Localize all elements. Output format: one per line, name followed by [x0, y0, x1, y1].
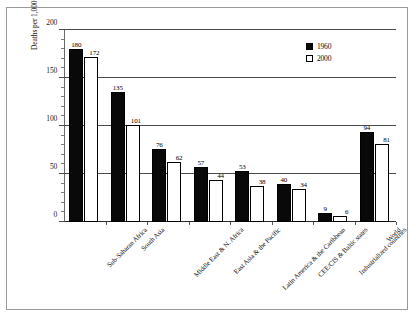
- bar-value-label-2000: 101: [131, 117, 141, 125]
- x-tick-mark: [189, 222, 190, 225]
- legend-label-1960: 1960: [317, 42, 331, 51]
- y-minor-tick-30: [61, 192, 64, 193]
- y-tick-mark-0: [59, 221, 65, 222]
- bar-2000: 34: [292, 189, 306, 222]
- bar-1960: 9: [318, 213, 332, 222]
- bar-2000: 101: [126, 125, 140, 222]
- bar-1960: 57: [194, 167, 208, 222]
- bar-2000: 81: [375, 144, 389, 222]
- bar-value-label-2000: 6: [345, 208, 348, 216]
- bar-value-label-2000: 38: [259, 178, 266, 186]
- bar-1960: 180: [69, 49, 83, 222]
- bar-group: 180172: [69, 30, 98, 222]
- legend-swatch-hollow-square-icon: [306, 55, 313, 62]
- bar-group: 5338: [235, 30, 264, 222]
- y-tick-mark-200: [59, 29, 65, 30]
- legend-label-2000: 2000: [317, 54, 331, 63]
- bar-1960: 135: [111, 92, 125, 222]
- bar-2000: 62: [167, 162, 181, 222]
- y-tick-mark-50: [59, 173, 65, 174]
- bar-value-label-1960: 94: [363, 124, 370, 132]
- y-minor-tick-120: [61, 106, 64, 107]
- y-minor-tick-20: [61, 202, 64, 203]
- plot-area: 050100150200 180172135101766257445338403…: [64, 30, 396, 222]
- bar-1960: 40: [277, 184, 291, 222]
- y-axis-title: Deaths per 1,000 Live Births: [30, 0, 39, 50]
- y-minor-tick-80: [61, 144, 64, 145]
- bar-group: 135101: [111, 30, 140, 222]
- bar-2000: 172: [84, 57, 98, 222]
- y-minor-tick-40: [61, 183, 64, 184]
- x-tick-mark: [230, 222, 231, 225]
- y-minor-tick-90: [61, 135, 64, 136]
- bar-value-label-1960: 9: [324, 205, 327, 213]
- bar-value-label-1960: 135: [113, 84, 123, 92]
- bar-2000: 38: [250, 186, 264, 222]
- x-tick-mark: [355, 222, 356, 225]
- bar-value-label-2000: 172: [89, 49, 99, 57]
- x-tick-mark: [313, 222, 314, 225]
- y-minor-tick-180: [61, 48, 64, 49]
- y-minor-tick-160: [61, 67, 64, 68]
- legend-swatch-filled-square-icon: [306, 43, 313, 50]
- bar-value-label-1960: 76: [156, 141, 163, 149]
- y-minor-tick-60: [61, 163, 64, 164]
- bar-1960: 53: [235, 171, 249, 222]
- bar-value-label-1960: 57: [197, 159, 204, 167]
- legend-item-1960: 1960: [306, 41, 331, 52]
- y-minor-tick-10: [61, 211, 64, 212]
- bar-2000: 6: [333, 216, 347, 222]
- y-minor-tick-70: [61, 154, 64, 155]
- legend-item-2000: 2000: [306, 53, 331, 64]
- bar-group: 5744: [194, 30, 223, 222]
- bar-value-label-2000: 44: [217, 172, 224, 180]
- y-minor-tick-190: [61, 39, 64, 40]
- bar-group: 4034: [277, 30, 306, 222]
- bar-1960: 76: [152, 149, 166, 222]
- bar-2000: 44: [209, 180, 223, 222]
- bar-value-label-1960: 180: [71, 41, 81, 49]
- y-minor-tick-110: [61, 115, 64, 116]
- y-tick-label-50: 50: [50, 161, 57, 170]
- bar-group: 9481: [360, 30, 389, 222]
- y-tick-mark-150: [59, 77, 65, 78]
- chart-page: Deaths per 1,000 Live Births 05010015020…: [0, 0, 416, 318]
- y-minor-tick-170: [61, 58, 64, 59]
- x-tick-mark: [147, 222, 148, 225]
- bar-value-label-2000: 34: [300, 181, 307, 189]
- y-axis-line: [64, 30, 65, 222]
- bar-value-label-2000: 62: [176, 154, 183, 162]
- y-tick-label-150: 150: [46, 65, 57, 74]
- y-minor-tick-130: [61, 96, 64, 97]
- y-tick-label-0: 0: [53, 209, 57, 218]
- bar-value-label-2000: 81: [383, 136, 390, 144]
- y-tick-label-200: 200: [46, 17, 57, 26]
- x-tick-mark: [272, 222, 273, 225]
- y-minor-tick-140: [61, 87, 64, 88]
- bar-group: 7662: [152, 30, 181, 222]
- x-tick-mark: [106, 222, 107, 225]
- bar-value-label-1960: 53: [239, 163, 246, 171]
- y-tick-label-100: 100: [46, 113, 57, 122]
- bar-value-label-1960: 40: [280, 176, 287, 184]
- y-tick-mark-100: [59, 125, 65, 126]
- chart-legend: 1960 2000: [306, 41, 331, 65]
- bar-1960: 94: [360, 132, 374, 222]
